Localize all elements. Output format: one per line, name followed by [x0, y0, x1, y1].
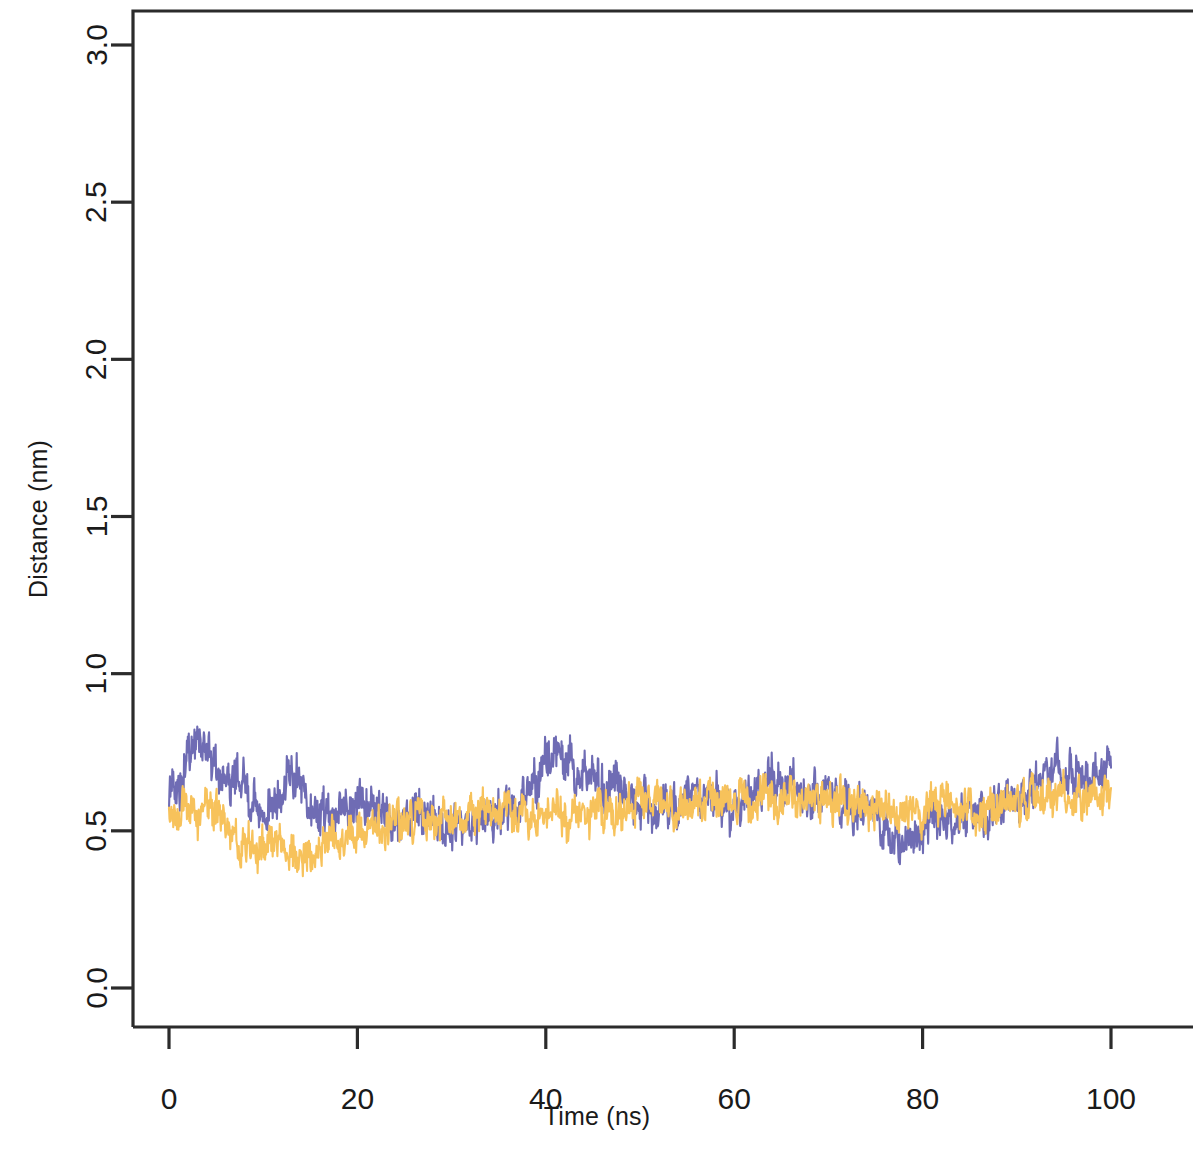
x-axis-ticks [169, 1027, 1111, 1049]
y-tick-label: 0.5 [80, 810, 113, 852]
y-axis-tick-labels: 0.00.51.01.52.02.53.0 [80, 24, 113, 1009]
plot-canvas: 0.00.51.01.52.02.53.0 020406080100 [0, 0, 1194, 1155]
y-tick-label: 0.0 [80, 967, 113, 1009]
y-tick-label: 1.0 [80, 653, 113, 695]
y-axis-ticks [111, 45, 133, 988]
x-axis-title: Time (ns) [0, 1102, 1194, 1131]
y-tick-label: 3.0 [80, 24, 113, 66]
chart-figure: 0.00.51.01.52.02.53.0 020406080100 Dista… [0, 0, 1194, 1155]
plot-frame [133, 11, 1193, 1027]
y-tick-label: 2.5 [80, 181, 113, 223]
y-axis-title: Distance (nm) [24, 440, 53, 598]
data-series-layer [169, 727, 1111, 877]
y-tick-label: 1.5 [80, 496, 113, 538]
y-tick-label: 2.0 [80, 338, 113, 380]
